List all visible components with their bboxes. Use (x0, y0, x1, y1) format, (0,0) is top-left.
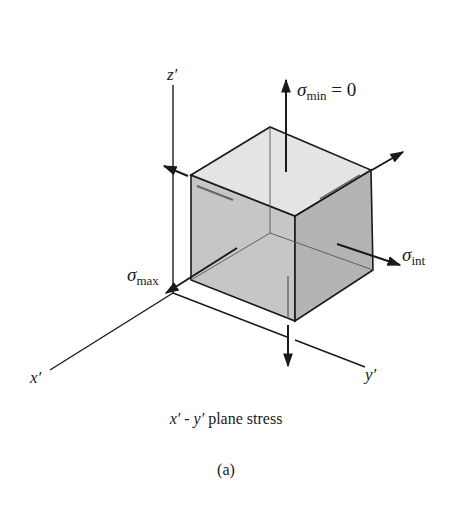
y-axis-line-far (295, 340, 365, 367)
stress-cube (191, 127, 373, 321)
stress-element-diagram: z′ x′ y′ σmin = 0 σint σmax x′ - y′ plan… (0, 0, 453, 510)
sigma-int-subscript: int (411, 253, 425, 268)
figure-caption: x′ - y′ plane stress (169, 410, 283, 428)
x-axis-line (50, 293, 173, 370)
sigma-max-subscript: max (136, 273, 159, 288)
caption-sep: - (180, 410, 193, 427)
x-axis-label: x′ (29, 368, 42, 387)
sigma-max-label: σmax (127, 264, 159, 288)
caption-rest: plane stress (204, 410, 282, 428)
y-axis-label: y′ (363, 365, 377, 384)
caption-y: y′ (192, 410, 205, 428)
sigma-int-arrow-back (372, 152, 403, 170)
caption-x: x′ (169, 410, 181, 427)
sigma-min-subscript: min (306, 88, 327, 103)
sigma-max-arrow-back (164, 166, 188, 176)
sigma-min-value: = 0 (327, 79, 357, 100)
z-axis-label: z′ (166, 65, 178, 84)
sigma-int-label: σint (402, 244, 425, 268)
sigma-min-label: σmin = 0 (297, 79, 356, 103)
subfigure-label: (a) (217, 461, 235, 479)
